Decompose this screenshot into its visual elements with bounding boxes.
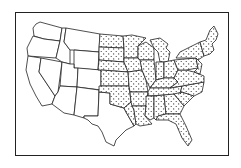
state-montana (64, 28, 100, 52)
state-kansas (101, 70, 129, 86)
state-mississippi (145, 96, 154, 120)
state-wisconsin (138, 42, 154, 60)
state-arkansas (130, 92, 148, 106)
state-florida (156, 114, 192, 146)
state-new-england (200, 26, 218, 56)
us-map (0, 0, 241, 168)
state-wyoming (74, 50, 99, 70)
state-new-york (176, 42, 204, 60)
state-south-dakota (99, 47, 124, 62)
state-pennsylvania (174, 58, 198, 70)
state-new-mexico (74, 87, 99, 118)
state-colorado (77, 68, 101, 90)
state-north-dakota (99, 34, 124, 48)
state-indiana (156, 62, 164, 80)
